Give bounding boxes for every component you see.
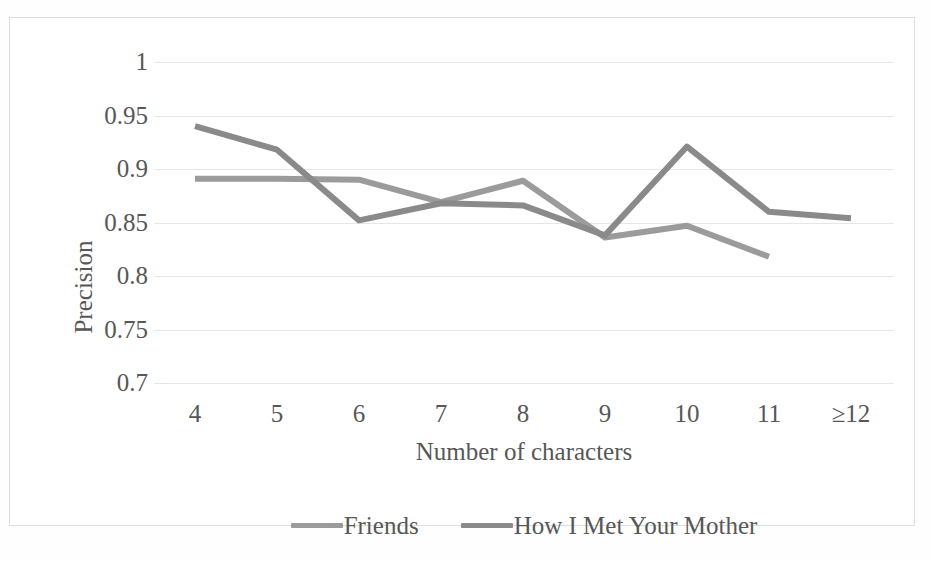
x-axis-tick-label: 4 bbox=[155, 399, 235, 429]
legend-item[interactable]: How I Met Your Mother bbox=[461, 513, 758, 538]
series-line-friends bbox=[195, 179, 769, 257]
legend-item-label: How I Met Your Mother bbox=[514, 513, 758, 538]
plot-area bbox=[154, 62, 894, 383]
x-axis-tick-label: 6 bbox=[319, 399, 399, 429]
legend-item-label: Friends bbox=[344, 513, 419, 538]
x-axis-tick-label: 7 bbox=[401, 399, 481, 429]
y-axis-tick-label: 1 bbox=[28, 49, 148, 74]
series-lines bbox=[154, 62, 894, 383]
x-axis-tick-label: 10 bbox=[647, 399, 727, 429]
x-axis-tick-label: 8 bbox=[483, 399, 563, 429]
chart-legend: FriendsHow I Met Your Mother bbox=[154, 505, 894, 545]
gridline bbox=[154, 383, 894, 384]
x-axis-tick-label: 11 bbox=[729, 399, 809, 429]
x-axis-tick-label: 5 bbox=[237, 399, 317, 429]
x-axis-tick-label: ≥12 bbox=[811, 399, 891, 429]
chart-figure: 10.950.90.850.80.750.7 Precision 4567891… bbox=[0, 0, 931, 561]
chart-frame: 10.950.90.850.80.750.7 Precision 4567891… bbox=[9, 17, 915, 526]
y-axis-title-container: Precision bbox=[52, 118, 92, 318]
legend-item[interactable]: Friends bbox=[291, 513, 419, 538]
line-swatch-friends bbox=[291, 523, 343, 528]
y-axis-title: Precision bbox=[70, 187, 98, 387]
x-axis-tick-label: 9 bbox=[565, 399, 645, 429]
x-axis-title: Number of characters bbox=[154, 438, 894, 466]
x-axis-tick-labels: 4567891011≥12 bbox=[154, 399, 931, 433]
line-swatch-himym bbox=[461, 523, 513, 528]
